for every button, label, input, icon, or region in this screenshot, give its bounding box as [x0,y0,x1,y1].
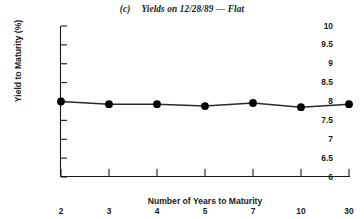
y-axis-tick-label: 8.5 [321,78,333,86]
data-point-marker [153,100,161,108]
x-axis-tick-label: 4 [145,207,169,215]
y-axis-tick-label: 6.5 [321,154,333,162]
chart-title: (c)Yields on 12/28/89 — Flat [0,4,364,14]
y-axis-tick-label: 9.5 [321,40,333,48]
x-axis-tick-label: 10 [289,207,313,215]
data-point-marker [57,98,65,106]
y-axis-tick-label: 7 [328,135,333,143]
y-axis-tick-label: 8 [328,97,333,105]
y-axis-tick-label: 9 [328,59,333,67]
x-axis-tick-label: 30 [337,207,361,215]
x-axis-title: Number of Years to Maturity [60,196,350,206]
data-point-marker [249,99,257,107]
x-axis-tick-label: 5 [193,207,217,215]
x-axis-ticks [61,169,349,176]
x-axis-tick-label: 7 [241,207,265,215]
y-axis-title: Yield to Maturity (%) [13,0,23,131]
data-point-marker [297,103,305,111]
chart-canvas [60,26,350,177]
x-axis-tick-label: 2 [49,207,73,215]
data-point-marker [345,100,353,108]
y-axis-tick-label: 6 [328,173,333,181]
y-axis-tick-label: 7.5 [321,116,333,124]
axis-lines [60,26,350,177]
chart-figure: (c)Yields on 12/28/89 — Flat Yield to Ma… [0,0,364,219]
x-axis-tick-label: 3 [97,207,121,215]
data-point-marker [105,100,113,108]
y-axis-tick-label: 10 [324,22,333,30]
panel-tag-label: (c) [120,4,131,14]
chart-title-text: Yields on 12/28/89 — Flat [141,4,244,14]
plot-area: 109.598.587.576.56 234571030 [60,26,350,177]
data-point-marker [201,102,209,110]
